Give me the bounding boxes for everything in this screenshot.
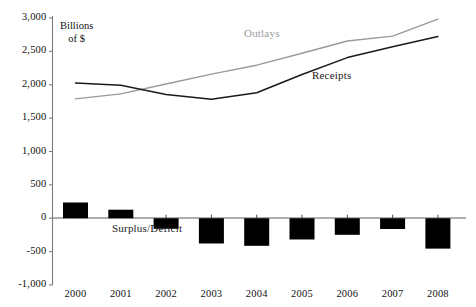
surplus-deficit-bar (199, 218, 224, 243)
y-axis-title-line2: of $ (60, 33, 93, 46)
x-axis-tick-label: 2006 (325, 288, 369, 299)
y-axis-tick-label: 3,000 (22, 11, 47, 22)
chart-canvas (0, 0, 476, 307)
x-axis-tick-label: 2002 (144, 288, 188, 299)
x-axis-tick-label: 2008 (416, 288, 460, 299)
y-axis-tick-label: -500 (26, 245, 46, 256)
surplus-deficit-bar (63, 202, 88, 218)
surplus-deficit-label: Surplus/Deficit (112, 222, 182, 234)
y-axis-tick-label: 1,000 (22, 145, 47, 156)
x-axis-tick-label: 2000 (54, 288, 98, 299)
y-axis-title: Billions of $ (60, 20, 93, 45)
y-axis-tick-label: 1,500 (22, 111, 47, 122)
y-axis-tick-label: 2,500 (22, 44, 47, 55)
x-axis-tick-label: 2007 (371, 288, 415, 299)
surplus-deficit-bar (380, 218, 405, 229)
surplus-deficit-bar (290, 218, 315, 239)
receipts-label: Receipts (312, 69, 351, 81)
y-axis-tick-label: -1,000 (18, 278, 46, 289)
surplus-deficit-bar (425, 218, 450, 248)
y-axis-tick-label: 2,000 (22, 78, 47, 89)
x-axis-tick-label: 2001 (99, 288, 143, 299)
budget-chart: Billions of $ 3,0002,5002,0001,5001,0005… (0, 0, 476, 307)
chart-background (0, 0, 476, 307)
x-axis-tick-label: 2003 (189, 288, 233, 299)
surplus-deficit-bar (335, 218, 360, 235)
y-axis-tick-label: 0 (41, 211, 46, 222)
y-axis-tick-label: 500 (30, 178, 46, 189)
x-axis-tick-label: 2004 (235, 288, 279, 299)
outlays-label: Outlays (244, 27, 280, 39)
x-axis-tick-label: 2005 (280, 288, 324, 299)
y-axis-title-line1: Billions (60, 20, 93, 31)
surplus-deficit-bar (244, 218, 269, 246)
surplus-deficit-bar (108, 210, 133, 219)
